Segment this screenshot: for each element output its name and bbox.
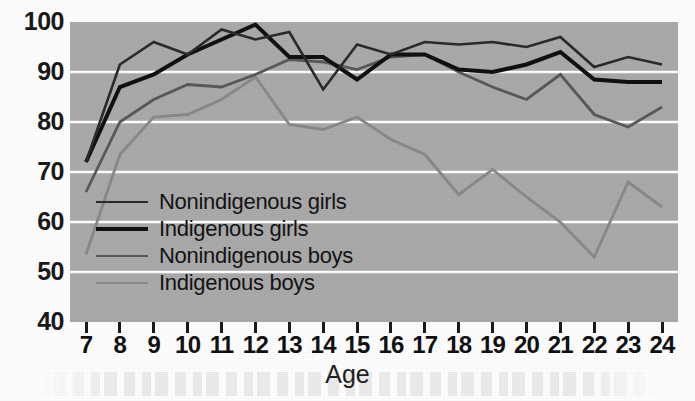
x-tick-label: 9 [147,333,160,357]
x-tick-label: 14 [311,333,336,357]
y-tick-label: 100 [24,9,64,34]
legend-line-swatch [96,282,148,284]
x-tick-label: 10 [175,333,200,357]
y-tick-label: 60 [37,209,64,234]
legend-line-swatch [96,255,148,257]
legend-item-nonindigenous-girls: Nonindigenous girls [96,188,396,215]
legend-line-swatch [96,227,148,231]
legend-item-label: Indigenous boys [159,272,315,294]
legend-item-label: Nonindigenous girls [159,191,347,213]
y-tick-label: 70 [37,159,64,184]
x-tick-label: 11 [210,333,234,357]
legend-item-indigenous-girls: Indigenous girls [96,215,396,242]
x-tick-label: 7 [80,333,93,357]
x-tick-label: 16 [378,333,403,357]
line-chart-figure: 405060708090100 789101112131415161718192… [0,0,695,401]
x-tick-label: 17 [412,333,437,357]
y-tick-label: 40 [37,309,64,334]
x-tick-label: 8 [114,333,127,357]
legend-item-label: Nonindigenous boys [159,245,353,267]
x-tick-label: 12 [243,333,268,357]
x-tick-label: 19 [480,333,505,357]
x-tick-label: 15 [344,333,369,357]
y-tick-label: 50 [37,259,64,284]
y-tick-label: 80 [37,109,64,134]
x-tick-label: 21 [548,333,573,357]
x-tick-label: 23 [616,333,641,357]
y-tick-label: 90 [37,59,64,84]
x-axis-title: Age [0,360,695,389]
chart-legend: Nonindigenous girlsIndigenous girlsNonin… [96,188,396,296]
legend-line-swatch [96,201,148,203]
y-axis: 405060708090100 [0,0,70,340]
legend-item-nonindigenous-boys: Nonindigenous boys [96,242,396,269]
series-line-nonindigenous-girls [86,30,662,163]
x-tick-label: 18 [446,333,471,357]
legend-item-indigenous-boys: Indigenous boys [96,269,396,296]
x-axis: 789101112131415161718192021222324 [70,322,678,362]
legend-item-label: Indigenous girls [159,218,308,240]
x-tick-label: 24 [649,333,674,357]
x-tick-label: 13 [277,333,302,357]
x-tick-label: 20 [514,333,539,357]
x-tick-label: 22 [582,333,607,357]
